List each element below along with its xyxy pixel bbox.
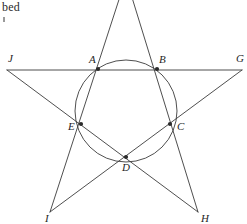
star-chord-h-j: [7, 70, 198, 212]
vertex-label-b: B: [159, 53, 166, 65]
vertex-dot-b: [155, 67, 159, 71]
star-chord-f-i: [50, 0, 126, 212]
vertex-label-e: E: [67, 120, 75, 132]
vertex-dot-a: [96, 67, 100, 71]
star-line-group: [7, 0, 242, 212]
vertex-label-group: ABCDEGHIJ: [8, 52, 244, 224]
figure-canvas: bed ABCDEGHIJ: [0, 0, 247, 224]
vertex-label-d: D: [121, 161, 130, 173]
vertex-dot-c: [168, 122, 172, 126]
vertex-label-a: A: [88, 53, 96, 65]
vertex-dot-e: [79, 122, 83, 126]
vertex-label-g: G: [236, 52, 244, 64]
inscribed-circle: [75, 60, 177, 162]
vertex-label-j: J: [8, 52, 14, 64]
pentagram-diagram: ABCDEGHIJ: [0, 0, 247, 224]
star-chord-f-h: [126, 0, 198, 212]
inscribed-circle-group: [75, 60, 177, 162]
vertex-label-c: C: [177, 120, 185, 132]
vertex-label-i: I: [44, 212, 50, 224]
vertex-dot-d: [124, 155, 128, 159]
vertex-label-h: H: [200, 212, 210, 224]
